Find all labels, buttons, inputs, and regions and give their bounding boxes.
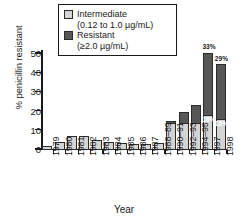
segment-resistant [203, 53, 213, 116]
x-tick-label-1983: 1983 [101, 137, 111, 156]
legend-sublabel-resistant: (≥2.0 µg/mL) [77, 41, 171, 52]
x-tick-label-1982: 1982 [88, 137, 98, 156]
x-tick-label-1992-93: 1992–93 [188, 122, 198, 156]
x-tick-label-1987: 1987 [150, 137, 160, 156]
x-tick-label-1984: 1984 [113, 137, 123, 156]
x-tick-label-1997: 1997 [212, 137, 222, 156]
x-tick-label-1990-91: 1990–91 [175, 122, 185, 156]
intermediate-swatch-icon [64, 10, 73, 19]
resistant-swatch-icon [64, 31, 73, 40]
chart-legend: Intermediate (0.12 to 1.0 µg/mL) Resista… [58, 4, 177, 56]
legend-label-resistant: Resistant [77, 30, 115, 41]
x-tick-label-1985: 1985 [126, 137, 136, 156]
data-label-33pct-1997: 33% [202, 43, 215, 50]
legend-sublabel-intermediate: (0.12 to 1.0 µg/mL) [77, 20, 171, 31]
x-tick-label-1986: 1986 [138, 137, 148, 156]
x-tick-label-1979: 1979 [51, 137, 61, 156]
penicillin-resistance-bar-chart: % penicillin resistant 01020304050 19791… [0, 0, 248, 219]
x-tick-label-1980: 1980 [64, 137, 74, 156]
x-axis-title: Year [0, 204, 248, 215]
x-tick-label-1994-95: 1994–95 [200, 122, 210, 156]
legend-label-intermediate: Intermediate [77, 9, 127, 20]
segment-resistant [216, 64, 226, 120]
legend-item-resistant: Resistant [64, 30, 171, 41]
x-tick-label-1981: 1981 [76, 137, 86, 156]
data-label-29pct-1998: 29% [215, 55, 228, 62]
x-tick-label-1988-89: 1988–89 [163, 122, 173, 156]
legend-item-intermediate: Intermediate [64, 9, 171, 20]
segment-resistant [191, 105, 201, 124]
data-label-18pct-1997: 18% [202, 116, 215, 123]
x-tick-label-1998: 1998 [225, 137, 235, 156]
data-label-16pct-1998: 16% [215, 120, 228, 127]
